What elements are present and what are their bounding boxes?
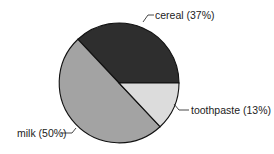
label-milk: milk (50%) [17,127,67,139]
pie-chart: cereal (37%) toothpaste (13%) milk (50%) [0,0,274,154]
leader-line-toothpaste [174,104,189,110]
pie-slices [59,23,179,143]
label-cereal: cereal (37%) [155,9,215,21]
leader-line-cereal [143,15,154,22]
label-toothpaste: toothpaste (13%) [191,104,271,116]
